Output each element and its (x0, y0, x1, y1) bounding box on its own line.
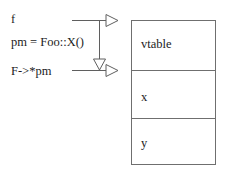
object-slot-label-x: x (141, 91, 147, 104)
arrowhead-right-f-to-object (106, 15, 118, 27)
arrowhead-right-deref-to-object (106, 65, 118, 77)
object-layout-box: vtable x y (131, 20, 216, 165)
diagram-canvas: f pm = Foo::X() F->*pm vtable x y (0, 0, 229, 174)
object-slot-y: y (132, 119, 215, 164)
arrowhead-down-pm-offset (94, 59, 106, 70)
object-slot-label-vtable: vtable (141, 38, 172, 51)
object-slot-label-y: y (141, 137, 147, 150)
object-slot-vtable: vtable (132, 21, 215, 71)
object-slot-x: x (132, 71, 215, 119)
